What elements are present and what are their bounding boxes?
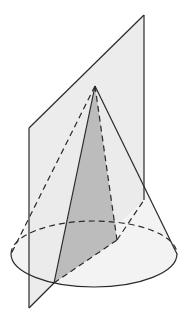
cone-plane-diagram (0, 0, 182, 322)
